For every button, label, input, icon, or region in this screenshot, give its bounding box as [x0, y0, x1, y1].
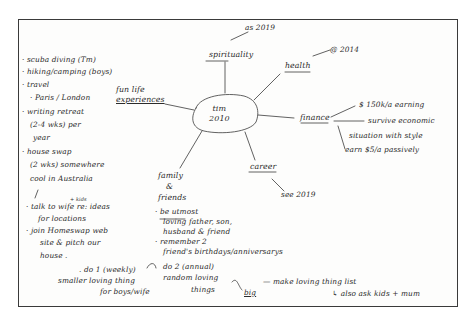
center-node: tim 2010	[209, 104, 230, 123]
family-do1: . do 1 (weekly)	[79, 265, 136, 275]
family-do2-line2: random loving	[163, 273, 218, 283]
spirituality-note: as 2019	[245, 23, 275, 33]
center-label-line1: tim	[209, 104, 230, 114]
family-node-line3: friends	[158, 193, 186, 203]
fun-item: · house swap	[22, 147, 72, 157]
family-item: · remember 2	[155, 237, 207, 247]
fun-item: · join Homeswap web	[26, 226, 108, 236]
center-label-line2: 2010	[209, 114, 230, 124]
fun-item: house .	[40, 251, 68, 261]
family-do1-line3: for boys/wife	[100, 287, 150, 297]
fun-item: · talk to wife re: ideas	[26, 202, 110, 212]
family-ask: ↳ also ask kids + mum	[332, 289, 420, 299]
finance-node: finance	[300, 113, 330, 123]
family-item: friend's birthdays/anniversarys	[163, 247, 283, 257]
family-make-list: — make loving thing list	[263, 277, 356, 287]
fun-item: site & pitch our	[40, 238, 100, 248]
spirituality-node: spirituality	[209, 50, 253, 60]
career-note: see 2019	[281, 190, 316, 200]
finance-item: $ 150k/a earning	[359, 100, 424, 110]
finance-item: survive economic	[368, 116, 435, 126]
career-node: career	[250, 162, 276, 172]
family-big: big	[244, 288, 256, 298]
fun-node-line2: experiences	[116, 95, 165, 105]
fun-item: for locations	[38, 214, 86, 224]
fun-item: (2-4 wks) per	[30, 120, 81, 130]
fun-item: · hiking/camping (boys)	[22, 67, 112, 77]
family-do2-line3: things	[191, 285, 215, 295]
fun-item: · travel	[22, 80, 49, 90]
family-node-line1: family	[158, 171, 183, 181]
family-do2: do 2 (annual)	[163, 262, 214, 272]
family-item: husband & friend	[163, 227, 230, 237]
health-note: @ 2014	[330, 45, 359, 55]
fun-item: · Paris / London	[30, 93, 90, 103]
family-item: · be utmost	[155, 207, 198, 217]
family-do1-line2: smaller loving thing	[58, 276, 135, 286]
fun-item: year	[33, 133, 50, 143]
fun-node-line1: fun life	[116, 85, 145, 95]
finance-item: situation with style	[349, 131, 423, 141]
family-item: loving father, son,	[163, 217, 232, 227]
fun-item: (2 wks) somewhere	[30, 160, 104, 170]
fun-item: · writing retreat	[22, 107, 84, 117]
finance-item: earn $5/a passively	[345, 145, 419, 155]
fun-item: · scuba diving (Tm)	[22, 55, 96, 65]
fun-item: cool in Australia	[30, 174, 93, 184]
family-node-line2: &	[166, 182, 173, 192]
health-node: health	[285, 61, 311, 71]
